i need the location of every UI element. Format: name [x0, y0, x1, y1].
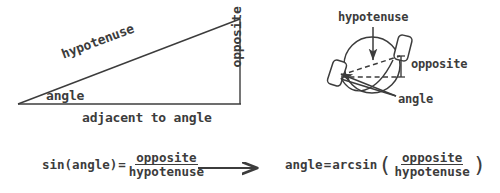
arcsine-formula-lhs: angle: [285, 157, 323, 172]
arcsine-formula-equals: =: [323, 157, 333, 172]
figure-canvas: hypotenuse angle adjacent to angle oppos…: [0, 0, 500, 193]
triangle-angle-label: angle: [46, 88, 84, 103]
arcsine-formula: angle = arcsin ( opposite hypotenuse ): [285, 151, 487, 178]
sine-formula: sin(angle) = opposite hypotenuse: [42, 151, 206, 178]
crank-hypotenuse-label: hypotenuse: [338, 10, 408, 24]
sine-formula-equals: =: [117, 157, 127, 172]
sine-formula-fraction: opposite hypotenuse: [128, 151, 205, 178]
crank-angle-label: angle: [398, 92, 433, 106]
arcsine-open-paren: (: [377, 154, 392, 176]
sine-formula-lhs: sin(angle): [42, 157, 117, 172]
sine-formula-numerator: opposite: [135, 151, 197, 165]
arcsine-formula-denominator: hypotenuse: [394, 165, 471, 178]
arcsine-formula-numerator: opposite: [401, 151, 463, 165]
arcsine-close-paren: ): [472, 154, 487, 176]
triangle-adjacent-label: adjacent to angle: [82, 110, 212, 125]
triangle-opposite-label: opposite to angle: [229, 0, 244, 68]
crank-hypotenuse-dashed: [341, 56, 400, 75]
sine-formula-denominator: hypotenuse: [128, 165, 205, 178]
crank-circle: [344, 37, 400, 93]
crank-circle-group: [326, 27, 412, 96]
crank-opposite-label: opposite: [411, 57, 467, 71]
crank-arm: [341, 60, 393, 91]
arcsine-formula-function: arcsin: [332, 157, 377, 172]
arcsine-formula-fraction: opposite hypotenuse: [394, 151, 471, 178]
right-pedal-icon: [393, 34, 413, 62]
